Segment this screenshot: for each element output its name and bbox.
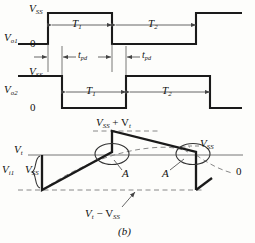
vo2-t1-label: T1 bbox=[86, 85, 96, 96]
vo1-high-level-label: VSS bbox=[29, 3, 43, 14]
vo2-axis-label: Vo2 bbox=[4, 84, 18, 95]
vo1-t1-label: T1 bbox=[72, 18, 82, 29]
vt-threshold-label: Vt bbox=[14, 144, 23, 155]
vo1-low-level-label: 0 bbox=[30, 38, 36, 49]
figure-container: Vo1 VSS 0 T1 T2 tpd tpd Vo2 VSS 0 T1 T2 … bbox=[0, 0, 255, 243]
tpd-guide-lines bbox=[48, 44, 126, 80]
vo1-waveform-trace bbox=[18, 13, 242, 44]
tpd-right-label: tpd bbox=[142, 50, 151, 60]
vo1-axis-label: Vo1 bbox=[4, 32, 18, 43]
vss-asymptote-label: VSS bbox=[200, 138, 214, 149]
point-a-right-leader bbox=[170, 159, 184, 170]
vss-plus-vt-label: VSS + Vt bbox=[96, 117, 131, 128]
vi1-zero-label: 0 bbox=[236, 166, 242, 177]
vss-brace-label: VSS bbox=[25, 164, 39, 175]
vo2-low-level-label: 0 bbox=[30, 102, 36, 113]
point-a-left-leader bbox=[114, 160, 122, 170]
vi1-waveform-trace bbox=[42, 131, 212, 190]
vo2-high-level-label: VSS bbox=[29, 66, 43, 77]
vt-minus-vss-label: Vt − VSS bbox=[85, 208, 120, 219]
point-a-left-label: A bbox=[122, 168, 129, 179]
tpd-left-label: tpd bbox=[78, 50, 87, 60]
vt-minus-vss-leader bbox=[122, 192, 135, 207]
vo2-t2-label: T2 bbox=[162, 85, 172, 96]
vi1-axis-label: Vi1 bbox=[2, 164, 14, 175]
point-a-right-label: A bbox=[162, 168, 169, 179]
vo1-t2-label: T2 bbox=[148, 18, 158, 29]
figure-caption: (b) bbox=[118, 226, 131, 237]
